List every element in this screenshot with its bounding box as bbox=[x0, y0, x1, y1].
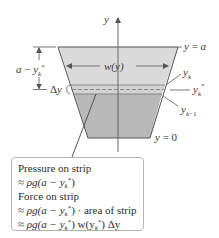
expr: ρg(a − y bbox=[27, 176, 65, 188]
delta-y-brace bbox=[67, 85, 70, 94]
callout-line-force-expr2: ≈ ρg(a − yk*) w(yk*) Δy bbox=[18, 217, 143, 231]
callout-line-pressure-title: Pressure on strip bbox=[18, 161, 143, 175]
yk-minus-1-label: yk−1 bbox=[180, 103, 197, 118]
expr-suffix: ) · area of strip bbox=[71, 204, 136, 216]
approx-symbol: ≈ bbox=[18, 204, 27, 216]
depth-label: a − yk* bbox=[16, 63, 45, 78]
bottom-level-label: y = 0 bbox=[154, 131, 178, 143]
yk-star-label: yk* bbox=[192, 82, 205, 98]
yk-minus-1-leader bbox=[163, 96, 178, 106]
callout-line-force-title: Force on strip bbox=[18, 189, 143, 203]
top-level-label: y = a bbox=[183, 40, 207, 52]
delta-y-label: Δy bbox=[50, 83, 62, 95]
sup: * bbox=[68, 176, 72, 184]
callout-line-force-expr1: ≈ ρg(a − yk*) · area of strip bbox=[18, 203, 143, 217]
y-axis-label: y bbox=[103, 13, 109, 25]
expr-mid: ) w(y bbox=[71, 218, 95, 230]
expr-end: ) Δy bbox=[101, 218, 120, 230]
expr: ρg(a − y bbox=[27, 218, 65, 230]
yk-label: yk bbox=[182, 66, 192, 81]
callout-line-pressure-expr: ≈ ρg(a − yk*) bbox=[18, 175, 143, 189]
approx-symbol: ≈ bbox=[18, 176, 27, 188]
width-label: w(y) bbox=[104, 60, 124, 73]
approx-symbol: ≈ bbox=[18, 218, 27, 230]
expr: ρg(a − y bbox=[27, 204, 65, 216]
pressure-force-callout: Pressure on strip ≈ ρg(a − yk*) Force on… bbox=[11, 157, 144, 231]
